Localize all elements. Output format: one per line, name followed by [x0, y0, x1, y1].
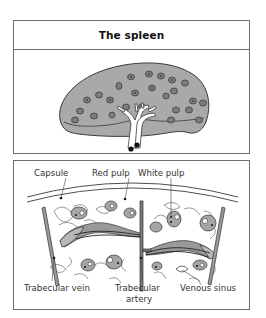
- label-white-pulp: White pulp: [138, 168, 184, 178]
- label-venous-sinus: Venous sinus: [180, 283, 236, 293]
- label-red-pulp: Red pulp: [92, 168, 130, 178]
- trabecular-vein-left: [42, 207, 59, 286]
- spleen-organ-illustration: [14, 50, 249, 154]
- spleen-histology-panel: Capsule Red pulp White pulp Trabecular v…: [13, 160, 250, 310]
- spleen-overview-panel: The spleen: [13, 20, 250, 154]
- figure-title: The spleen: [99, 29, 165, 41]
- venous-sinus: [176, 266, 188, 272]
- label-trabecular-artery-line2: artery: [126, 294, 152, 304]
- panel-header: The spleen: [14, 21, 249, 50]
- label-trabecular-vein: Trabecular vein: [24, 283, 90, 293]
- label-trabecular-artery-line1: Trabecular: [115, 283, 160, 293]
- label-capsule: Capsule: [34, 168, 68, 178]
